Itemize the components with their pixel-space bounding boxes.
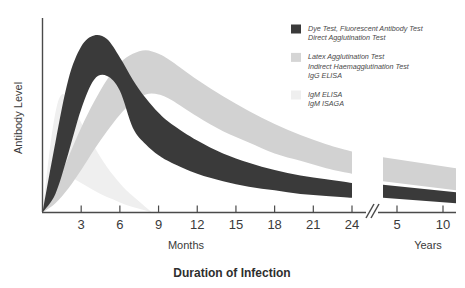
chart-canvas: 3691215182124 510 Months Years Duration … — [0, 0, 465, 288]
axis-break-icon — [366, 204, 379, 218]
chart-legend: Dye Test, Fluorescent Antibody TestDirec… — [291, 24, 424, 108]
band-latex-iha-iggelisa-years — [383, 157, 456, 190]
legend-label-1-0: Latex Agglutination Test — [308, 52, 385, 61]
legend-swatch-2 — [291, 91, 301, 100]
y-axis-label: Antibody Level — [12, 82, 24, 154]
x-tick-label-year-10: 10 — [436, 217, 450, 232]
legend-label-2-1: IgM ISAGA — [308, 99, 344, 108]
x-tick-label-month-12: 12 — [190, 217, 204, 232]
chart-title: Duration of Infection — [173, 266, 290, 280]
x-tick-labels-years: 510 — [393, 217, 450, 232]
x-tick-label-year-5: 5 — [393, 217, 400, 232]
legend-label-0-0: Dye Test, Fluorescent Antibody Test — [308, 24, 424, 33]
x-tick-label-month-24: 24 — [345, 217, 359, 232]
x-tick-labels-months: 3691215182124 — [78, 217, 360, 232]
legend-label-1-1: Indirect Haemagglutination Test — [308, 62, 410, 71]
legend-label-1-2: IgG ELISA — [308, 71, 342, 80]
x-tick-label-month-9: 9 — [155, 217, 162, 232]
legend-label-0-1: Direct Agglutination Test — [308, 33, 386, 42]
x-axis-ticks-months — [81, 206, 352, 213]
legend-swatch-0 — [291, 25, 301, 34]
x-axis-unit-years: Years — [414, 239, 442, 251]
legend-label-2-0: IgM ELISA — [308, 90, 343, 99]
x-tick-label-month-15: 15 — [229, 217, 243, 232]
x-axis-unit-months: Months — [168, 239, 205, 251]
x-tick-label-month-3: 3 — [78, 217, 85, 232]
legend-swatch-1 — [291, 53, 301, 62]
x-tick-label-month-18: 18 — [267, 217, 281, 232]
x-axis-ticks-years — [397, 206, 443, 213]
antibody-kinetics-chart: 3691215182124 510 Months Years Duration … — [0, 0, 465, 288]
x-tick-label-month-21: 21 — [306, 217, 320, 232]
x-tick-label-month-6: 6 — [116, 217, 123, 232]
